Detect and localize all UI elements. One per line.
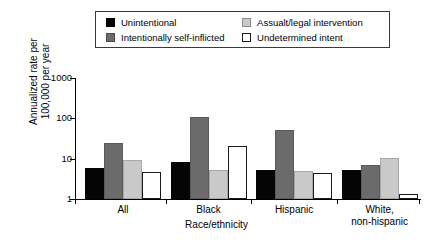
bar: [104, 143, 123, 199]
legend-entry-unintentional: Unintentional: [96, 15, 238, 30]
bar: [275, 130, 294, 199]
y-tick-label: 100: [56, 112, 72, 123]
chart-figure: Unintentional Assualt/legal intervention…: [0, 0, 433, 244]
x-category-label-line1: White,: [330, 204, 430, 216]
legend-swatch-unintentional: [106, 18, 115, 27]
bar: [256, 170, 275, 199]
bar: [171, 162, 190, 199]
legend-entry-undetermined-intent: Undetermined intent: [238, 30, 389, 45]
bar: [313, 173, 332, 199]
legend-entry-intentionally-self-inflicted: Intentionally self-inflicted: [96, 30, 238, 45]
x-axis-line: [75, 199, 421, 200]
plot-area: 1000100101: [75, 78, 420, 199]
bar: [190, 117, 209, 199]
bar: [142, 172, 161, 199]
legend-swatch-assault-legal-intervention: [242, 18, 251, 27]
y-tick-label: 1: [67, 193, 72, 204]
bar: [342, 170, 361, 199]
x-category-label-line2: non-hispanic: [330, 216, 430, 228]
legend-label-unintentional: Unintentional: [121, 18, 176, 28]
legend-row-2: Intentionally self-inflicted Undetermine…: [96, 30, 389, 45]
bar: [399, 194, 418, 199]
x-category-label: White,non-hispanic: [330, 204, 430, 227]
legend-label-intentionally-self-inflicted: Intentionally self-inflicted: [121, 33, 225, 43]
bar: [209, 170, 228, 199]
bar: [85, 168, 104, 199]
legend-entry-assault-legal-intervention: Assualt/legal intervention: [238, 15, 389, 30]
y-axis-label: Annualized rate per 100,000 per year: [28, 7, 51, 157]
y-axis-label-line1: Annualized rate per: [28, 7, 40, 157]
legend-swatch-intentionally-self-inflicted: [106, 33, 115, 42]
y-axis-label-line2: 100,000 per year: [39, 7, 51, 157]
legend-label-undetermined-intent: Undetermined intent: [257, 33, 343, 43]
legend-row-1: Unintentional Assualt/legal intervention: [96, 15, 389, 30]
y-tick-label: 10: [61, 153, 72, 164]
bar: [361, 165, 380, 199]
bar: [380, 158, 399, 199]
chart-legend: Unintentional Assualt/legal intervention…: [95, 11, 390, 48]
y-tick-label: 1000: [51, 72, 72, 83]
legend-swatch-undetermined-intent: [242, 33, 251, 42]
legend-label-assault-legal-intervention: Assualt/legal intervention: [257, 18, 363, 28]
bar: [228, 146, 247, 199]
bar: [123, 160, 142, 199]
bar: [294, 171, 313, 199]
